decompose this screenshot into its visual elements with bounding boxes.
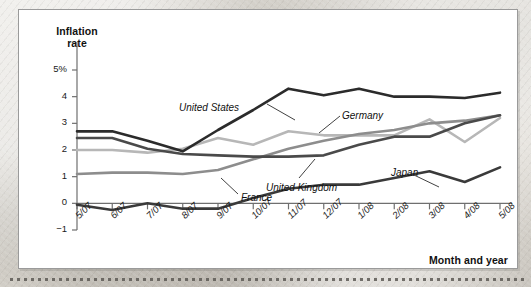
y-axis-tick-label: 0 [41, 196, 67, 207]
series-label-united-states: United States [179, 102, 239, 113]
annotation-leader-line [319, 116, 340, 133]
annotation-leader-line [299, 159, 315, 178]
y-axis-tick-label: 1 [41, 170, 67, 181]
y-axis-tick-label: −1 [41, 223, 67, 234]
y-axis-tick-label: 3 [41, 116, 67, 127]
y-axis-tick-label: 4 [41, 90, 67, 101]
annotation-leader-line [221, 178, 238, 194]
y-axis-tick-label: 2 [41, 143, 67, 154]
series-label-united-kingdom: United Kingdom [266, 182, 337, 193]
series-label-france: France [241, 192, 272, 203]
series-line-united-states [77, 89, 500, 152]
x-axis-title: Month and year [429, 255, 508, 267]
series-label-japan: Japan [391, 167, 418, 178]
series-label-germany: Germany [342, 110, 383, 121]
decorative-dotted-rule [10, 278, 525, 281]
chart-panel: Inflation rate 5%43210−1 5/076/077/078/0… [18, 9, 518, 269]
line-chart-plot [19, 10, 519, 270]
y-axis-tick-label: 5% [41, 63, 67, 74]
annotation-leader-line [267, 104, 295, 120]
